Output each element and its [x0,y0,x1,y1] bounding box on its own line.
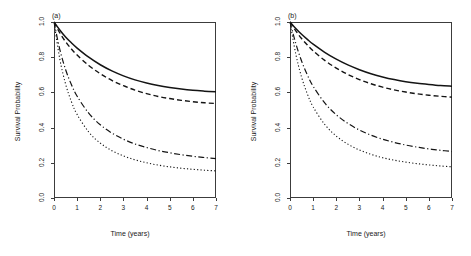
x-tick-label: 5 [165,204,175,211]
x-tick-label: 3 [118,204,128,211]
panel-b-x-axis-title: Time (years) [321,230,411,237]
x-tick-label: 2 [95,204,105,211]
y-tick-mark [287,163,290,164]
x-tick-label: 7 [447,204,457,211]
x-tick-label: 7 [211,204,221,211]
y-tick-label: 0.4 [274,119,281,135]
y-tick-label: 0.8 [274,49,281,65]
panel-b-label: (b) [288,12,297,19]
y-tick-label: 0.8 [38,49,45,65]
x-tick-label: 4 [378,204,388,211]
x-tick-label: 0 [49,204,59,211]
y-tick-mark [287,57,290,58]
y-tick-label: 0.6 [274,84,281,100]
x-tick-mark [383,198,384,201]
x-tick-mark [170,198,171,201]
y-tick-mark [51,92,54,93]
x-tick-label: 1 [72,204,82,211]
x-tick-label: 2 [331,204,341,211]
y-tick-label: 0.2 [38,154,45,170]
y-tick-mark [51,57,54,58]
y-tick-label: 0.2 [274,154,281,170]
curve-dashed [54,22,216,103]
y-tick-label: 0.0 [274,190,281,206]
x-tick-mark [429,198,430,201]
x-tick-label: 5 [401,204,411,211]
panel-a-curves [54,22,216,198]
x-tick-label: 4 [142,204,152,211]
y-tick-label: 0.4 [38,119,45,135]
panel-a-y-axis-title: Survival Probability [14,67,21,157]
y-tick-label: 0.0 [38,190,45,206]
x-tick-mark [359,198,360,201]
survival-probability-figure: (a) Survival Probability Time (years) 0.… [0,0,471,256]
x-tick-mark [406,198,407,201]
y-tick-label: 0.6 [38,84,45,100]
x-tick-mark [123,198,124,201]
x-tick-label: 1 [308,204,318,211]
y-tick-mark [287,128,290,129]
x-tick-mark [336,198,337,201]
y-tick-mark [51,128,54,129]
x-tick-label: 0 [285,204,295,211]
curve-solid [290,22,452,86]
x-tick-label: 6 [424,204,434,211]
x-tick-mark [100,198,101,201]
curve-dashdot [290,22,452,152]
panel-a-label: (a) [52,12,61,19]
y-tick-label: 1.0 [274,14,281,30]
x-tick-mark [54,198,55,201]
y-tick-mark [287,22,290,23]
x-tick-mark [216,198,217,201]
curve-dotted [54,22,216,171]
x-tick-mark [290,198,291,201]
x-tick-mark [313,198,314,201]
y-tick-mark [51,163,54,164]
y-tick-mark [287,92,290,93]
x-tick-label: 6 [188,204,198,211]
panel-b-y-axis-title: Survival Probability [250,67,257,157]
y-tick-label: 1.0 [38,14,45,30]
x-tick-mark [77,198,78,201]
x-tick-mark [147,198,148,201]
x-tick-mark [193,198,194,201]
panel-a-x-axis-title: Time (years) [85,230,175,237]
x-tick-mark [452,198,453,201]
panel-b-curves [290,22,452,198]
curve-dashed [290,22,452,97]
x-tick-label: 3 [354,204,364,211]
panel-b: (b) Survival Probability Time (years) 0.… [236,0,471,256]
panel-a: (a) Survival Probability Time (years) 0.… [0,0,235,256]
y-tick-mark [51,22,54,23]
